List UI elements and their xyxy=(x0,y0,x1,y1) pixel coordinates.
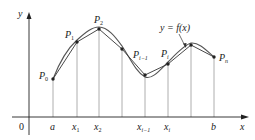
point-P0 xyxy=(51,77,54,80)
point-Pi xyxy=(166,62,169,65)
tick-a: a xyxy=(50,121,55,132)
label-P0: P0 xyxy=(38,70,48,82)
point-P3 xyxy=(120,47,123,50)
label-Pi: Pi xyxy=(160,48,169,60)
label-Pn: Pn xyxy=(218,52,228,64)
label-Pim1: Pi−1 xyxy=(132,49,148,61)
tick-x2: x2 xyxy=(93,121,101,133)
arc-length-diagram: y x 0 a x1 x2 xi−1 xi b P0 P1 P2 Pi−1 Pi… xyxy=(0,0,255,140)
label-P1: P1 xyxy=(64,29,74,41)
curve-label: y = f(x) xyxy=(159,22,191,34)
tick-xim1: xi−1 xyxy=(136,121,150,133)
point-Pn xyxy=(212,55,215,58)
tick-xi: xi xyxy=(163,121,170,133)
point-P2 xyxy=(97,27,100,30)
y-axis-arrow-icon xyxy=(27,12,32,19)
x-axis-label: x xyxy=(239,121,245,132)
label-P2: P2 xyxy=(93,14,103,26)
y-axis-label: y xyxy=(17,8,23,19)
point-Pim1 xyxy=(143,73,146,76)
tick-b: b xyxy=(211,121,216,132)
origin-label: 0 xyxy=(19,121,24,132)
point-P1 xyxy=(75,40,78,43)
axes xyxy=(12,12,249,135)
tick-x1: x1 xyxy=(71,121,79,133)
point-P6 xyxy=(189,43,192,46)
x-axis-arrow-icon xyxy=(241,115,249,120)
